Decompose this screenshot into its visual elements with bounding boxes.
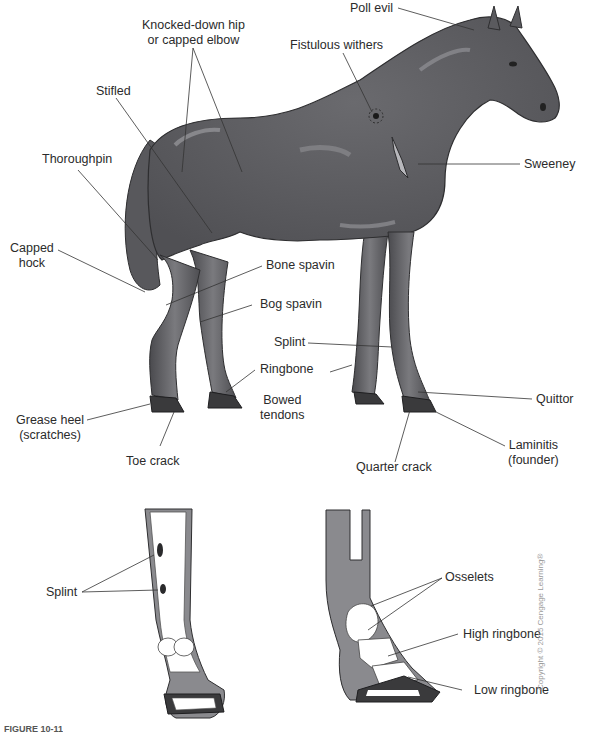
horse-far-front-leg (352, 230, 388, 396)
label-text: Grease heel (16, 413, 84, 428)
label-splint: Splint (274, 335, 305, 350)
fistulous-withers-mark (373, 113, 379, 119)
horse-illustration (125, 6, 559, 412)
label-bowed-tendons: Bowed tendons (260, 393, 304, 423)
label-bone-spavin: Bone spavin (266, 258, 335, 273)
label-grease-heel: Grease heel (scratches) (16, 413, 84, 443)
label-osselets: Osselets (445, 570, 494, 585)
label-toe-crack: Toe crack (126, 454, 180, 469)
label-quarter-crack: Quarter crack (356, 460, 432, 475)
label-stifled: Stifled (96, 84, 131, 99)
label-thoroughpin: Thoroughpin (42, 152, 112, 167)
front-leg-leader-lines (82, 555, 158, 592)
splint-mark-upper (157, 543, 163, 557)
label-capped-hock: Capped hock (10, 241, 54, 271)
hoof-far-hind (208, 392, 242, 408)
horse-ear-right (510, 6, 522, 28)
label-text: tendons (260, 408, 304, 423)
horse-near-front-leg (388, 232, 430, 402)
label-text: Knocked-down hip (142, 18, 245, 33)
label-text: hock (10, 256, 54, 271)
horse-nostril (540, 103, 546, 111)
label-sweeney: Sweeney (524, 157, 575, 172)
label-ringbone: Ringbone (260, 362, 314, 377)
label-knocked-down-hip: Knocked-down hip or capped elbow (142, 18, 245, 48)
label-text: Capped (10, 241, 54, 256)
splint-mark-lower (160, 584, 166, 594)
label-text: (scratches) (16, 428, 84, 443)
hoof-near-hind (150, 396, 184, 412)
label-text: or capped elbow (142, 33, 245, 48)
side-leg-cross-section (326, 510, 440, 702)
label-bog-spavin: Bog spavin (260, 297, 322, 312)
hoof-far-front (354, 392, 384, 404)
label-poll-evil: Poll evil (350, 1, 393, 16)
copyright-notice: Copyright © 2015 Cengage Learning® (536, 554, 545, 690)
figure-caption: FIGURE 10-11 (4, 724, 63, 735)
label-high-ringbone: High ringbone (463, 627, 541, 642)
label-text: Laminitis (508, 438, 559, 453)
label-text: (founder) (508, 453, 559, 468)
label-splint-detail: Splint (46, 585, 77, 600)
horse-body (148, 17, 559, 260)
label-laminitis: Laminitis (founder) (508, 438, 559, 468)
label-quittor: Quittor (536, 392, 574, 407)
label-text: Bowed (260, 393, 304, 408)
horse-eye (509, 62, 517, 67)
front-leg-cross-section (145, 509, 224, 718)
label-fistulous-withers: Fistulous withers (290, 38, 383, 53)
hoof-near-front (402, 396, 436, 412)
